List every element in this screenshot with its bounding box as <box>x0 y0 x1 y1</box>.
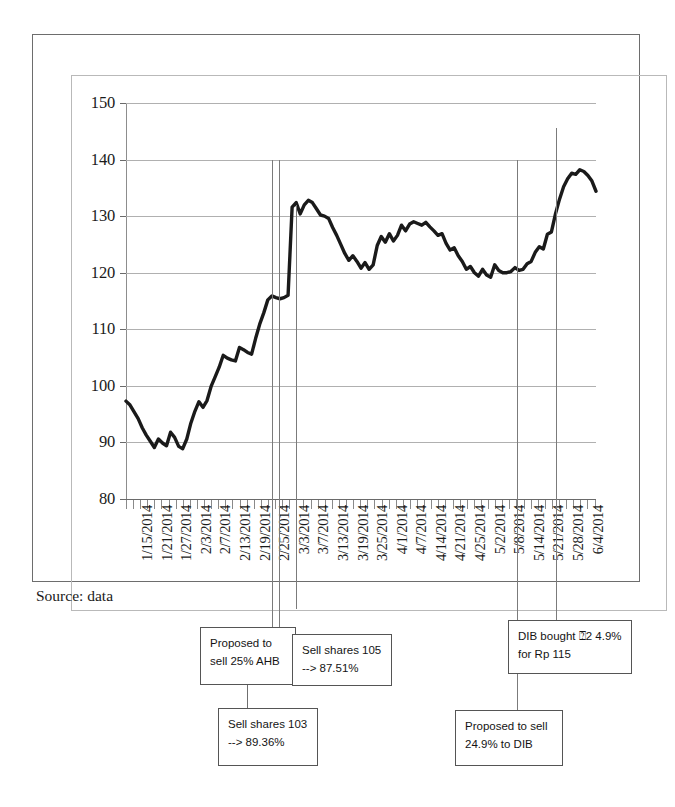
x-tick-label-22: 5/28/2014 <box>571 505 586 561</box>
annotation-proposed-sell-25-ahb[interactable]: Proposed to sell 25% AHB <box>200 627 296 685</box>
y-tick-label-140: 140 <box>91 151 115 168</box>
leader-line-2 <box>279 160 280 668</box>
y-tick-label-90: 90 <box>99 434 115 451</box>
x-tick-label-21: 5/21/2014 <box>551 505 566 561</box>
annotation-sell-shares-105[interactable]: Sell shares 105 --> 87.51% <box>292 634 392 686</box>
x-tick-label-1: 1/21/2014 <box>160 505 175 561</box>
annotation-line: DIB bought ⍰2 4.9% <box>518 628 622 646</box>
annotation-proposed-sell-249-dib[interactable]: Proposed to sell 24.9% to DIB <box>455 710 563 766</box>
x-tick-label-18: 5/2/2014 <box>493 505 508 554</box>
annotation-line: sell 25% AHB <box>210 653 286 671</box>
y-tick-label-150: 150 <box>91 95 115 112</box>
leader-line-3 <box>296 205 297 609</box>
x-tick-label-15: 4/14/2014 <box>434 505 449 561</box>
x-tick-label-5: 2/13/2014 <box>238 505 253 561</box>
annotation-sell-shares-103[interactable]: Sell shares 103 --> 89.36% <box>218 708 318 766</box>
price-series-line <box>126 103 596 499</box>
x-tick-label-13: 4/1/2014 <box>395 505 410 554</box>
connector-callout0-to-callout2 <box>247 685 248 708</box>
x-tick-label-14: 4/7/2014 <box>414 505 429 554</box>
x-tick-label-9: 3/7/2014 <box>316 505 331 554</box>
x-tick-label-6: 2/19/2014 <box>258 505 273 561</box>
annotation-dib-bought[interactable]: DIB bought ⍰2 4.9% for Rp 115 <box>508 620 632 674</box>
annotation-line: Sell shares 105 <box>302 642 382 660</box>
x-tick-label-0: 1/15/2014 <box>140 505 155 561</box>
chart-plot-area: 8090100110120130140150 <box>126 103 596 499</box>
chart-figure-frame: 8090100110120130140150 1/15/20141/21/201… <box>32 34 640 582</box>
x-tick-label-17: 4/25/2014 <box>473 505 488 561</box>
y-tick-label-110: 110 <box>91 321 115 338</box>
x-tick-label-23: 6/4/2014 <box>591 505 606 554</box>
annotation-line: Proposed to sell <box>465 718 553 736</box>
x-tick-labels: 1/15/20141/21/20141/27/20142/3/20142/7/2… <box>126 505 596 605</box>
leader-line-1 <box>272 160 273 638</box>
source-caption: Source: data <box>36 588 113 604</box>
annotation-line: Proposed to <box>210 635 286 653</box>
annotation-line: Sell shares 103 <box>228 716 308 734</box>
x-tick-label-19: 5/8/2014 <box>512 505 527 554</box>
x-tick-label-8: 3/3/2014 <box>297 505 312 554</box>
leader-line-5 <box>556 128 557 620</box>
annotation-line: for Rp 115 <box>518 646 622 664</box>
x-tick-label-3: 2/3/2014 <box>199 505 214 554</box>
annotation-line: --> 89.36% <box>228 734 308 752</box>
x-tick-label-10: 3/13/2014 <box>336 505 351 561</box>
y-tick-label-120: 120 <box>91 264 115 281</box>
annotation-line: 24.9% to DIB <box>465 736 553 754</box>
x-tick-label-4: 2/7/2014 <box>218 505 233 554</box>
x-tick-label-20: 5/14/2014 <box>532 505 547 561</box>
annotation-line: --> 87.51% <box>302 660 382 678</box>
x-tick-label-2: 1/27/2014 <box>179 505 194 561</box>
y-tick-label-100: 100 <box>91 378 115 395</box>
y-tick-label-80: 80 <box>99 491 115 508</box>
x-tick-label-12: 3/25/2014 <box>375 505 390 561</box>
y-tick-label-130: 130 <box>91 208 115 225</box>
y-tick-mark-80 <box>120 499 126 500</box>
x-tick-label-16: 4/21/2014 <box>453 505 468 561</box>
x-tick-label-11: 3/19/2014 <box>356 505 371 561</box>
